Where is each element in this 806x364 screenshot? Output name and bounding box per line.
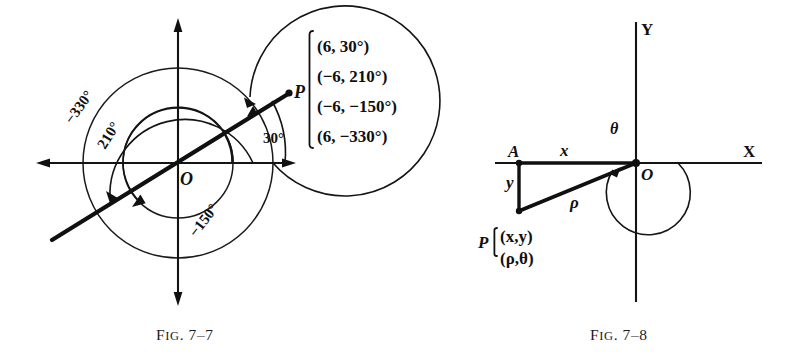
point-p-dot-right (516, 208, 522, 214)
leg-x-label: x (559, 141, 569, 160)
page-background (0, 0, 806, 364)
theta-label: θ (610, 120, 619, 137)
coordinate-item-rhotheta: (ρ,θ) (500, 249, 534, 268)
coordinate-item-3: (6, −330°) (317, 127, 387, 146)
x-axis-label: X (743, 142, 756, 161)
angle-label-30: 30° (263, 130, 284, 146)
caption-smallcaps-left: IG (165, 329, 179, 343)
rho-label: ρ (569, 193, 579, 212)
figure-plate: 30° −330° 210° −150° O P (6, 30°) (−6, 2… (0, 0, 806, 364)
point-p-label-right: P (477, 233, 489, 252)
point-p-label-left: P (293, 82, 306, 102)
coordinate-item-xy: (x,y) (500, 227, 533, 246)
caption-number-left: 7–7 (189, 326, 214, 343)
origin-dot-right (632, 159, 640, 167)
coordinate-item-1: (−6, 210°) (317, 67, 387, 86)
origin-label-right: O (641, 165, 653, 184)
caption-number-right: 7–8 (623, 326, 648, 343)
coordinate-item-2: (−6, −150°) (317, 97, 397, 116)
point-a-label: A (507, 142, 519, 161)
caption-smallcaps-right: IG (599, 329, 613, 343)
y-axis-label: Y (641, 20, 653, 39)
leg-y-label: y (504, 173, 514, 192)
caption-fig-7-8: FIG. 7–8 (590, 326, 648, 343)
coordinate-item-0: (6, 30°) (317, 37, 369, 56)
origin-label-left: O (180, 169, 193, 189)
caption-fig-7-7: FIG. 7–7 (156, 326, 214, 343)
point-p-dot (285, 89, 292, 96)
